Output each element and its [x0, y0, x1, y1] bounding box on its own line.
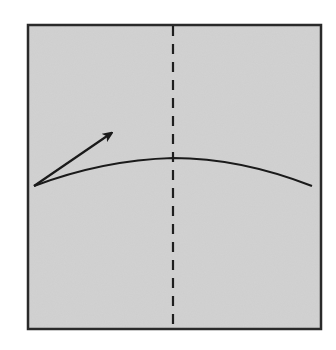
fold-diagram [0, 0, 336, 350]
paper-square [28, 25, 321, 329]
